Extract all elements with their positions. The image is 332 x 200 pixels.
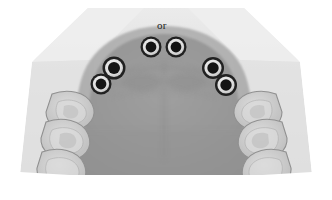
mask-top bbox=[0, 0, 332, 8]
film-grain-overlay bbox=[20, 8, 312, 180]
occlusal-radiograph-image: or bbox=[0, 0, 332, 200]
mask-bottom-left bbox=[20, 172, 86, 200]
mask-bottom-right bbox=[246, 172, 312, 200]
radiograph-film bbox=[0, 0, 332, 200]
